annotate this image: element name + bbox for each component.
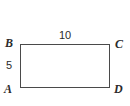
vertex-label-b: B	[5, 37, 13, 49]
vertex-label-a: A	[4, 83, 12, 95]
measure-label-top: 10	[59, 30, 71, 41]
measure-label-left: 5	[6, 60, 12, 71]
vertex-label-d: D	[114, 83, 123, 95]
rectangle-shape	[20, 44, 110, 88]
rectangle-figure: B C A D 10 5	[0, 0, 130, 106]
vertex-label-c: C	[115, 38, 123, 50]
